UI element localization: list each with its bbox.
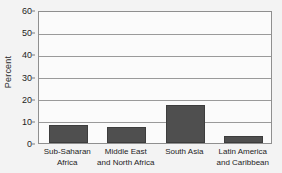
bar[interactable] [166, 105, 205, 143]
x-category-label: Middle East and North Africa [93, 147, 160, 168]
y-tick-label: 10 [22, 117, 32, 127]
y-axis-title-text: Percent [3, 56, 13, 88]
x-axis-category-labels: Sub-Saharan AfricaMiddle East and North … [38, 147, 272, 173]
bar[interactable] [49, 125, 88, 143]
y-tick-mark [32, 11, 35, 12]
x-category-label: Latin America and Caribbean [210, 147, 277, 168]
y-tick-mark [32, 121, 35, 122]
y-axis-tick-labels: 0102030405060 [16, 11, 35, 144]
bars-layer [39, 12, 271, 143]
y-tick-mark [32, 77, 35, 78]
y-tick-label: 40 [22, 50, 32, 60]
y-tick-mark [32, 144, 35, 145]
y-tick-label: 20 [22, 95, 32, 105]
y-tick-mark [32, 99, 35, 100]
y-tick-label: 30 [22, 73, 32, 83]
plot-area [38, 11, 272, 144]
bar-chart: Percent 0102030405060 Sub-Saharan Africa… [0, 0, 282, 173]
y-tick-mark [32, 33, 35, 34]
bar[interactable] [224, 136, 263, 143]
y-tick-mark [32, 55, 35, 56]
bar[interactable] [107, 127, 146, 143]
y-tick-label: 50 [22, 28, 32, 38]
y-tick-label: 60 [22, 6, 32, 16]
x-category-label: Sub-Saharan Africa [34, 147, 101, 168]
x-category-label: South Asia [151, 147, 218, 158]
y-axis-title: Percent [0, 0, 16, 144]
